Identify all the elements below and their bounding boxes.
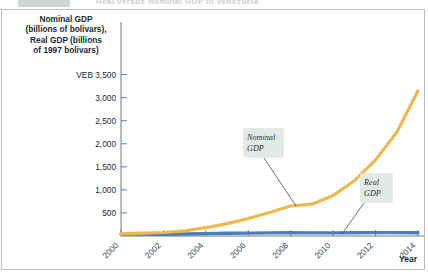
x-tick-label: 2010 bbox=[312, 240, 332, 260]
y-tick-label: 1,000 bbox=[95, 185, 116, 195]
chart-plot-area: VEB 3,5003,0002,5002,0001,5001,000500 20… bbox=[2, 10, 426, 269]
x-tick-label: 2002 bbox=[143, 240, 163, 260]
x-tick-label: 2006 bbox=[228, 240, 248, 260]
page-header-strip: Real versus Nominal GDP in Venezuela bbox=[0, 0, 428, 9]
x-tick-label: 2000 bbox=[100, 240, 120, 260]
x-tick-label: 2012 bbox=[355, 240, 375, 260]
real-gdp-callout-line1: Real bbox=[363, 178, 380, 187]
figure-container: Real versus Nominal GDP in Venezuela Nom… bbox=[0, 0, 428, 272]
y-tick-label: 3,000 bbox=[95, 93, 116, 103]
nominal-gdp-line bbox=[121, 91, 418, 234]
y-tick-label: 1,500 bbox=[95, 162, 116, 172]
x-tick-label: 2004 bbox=[185, 240, 205, 260]
chart-annotations: NominalGDPRealGDP bbox=[243, 128, 393, 234]
header-tab-block bbox=[18, 0, 70, 7]
nominal-gdp-callout: NominalGDP bbox=[243, 128, 296, 206]
nominal-gdp-callout-line2: GDP bbox=[247, 144, 264, 153]
x-axis-title: Year bbox=[399, 254, 418, 264]
y-axis-ticks: VEB 3,5003,0002,5002,0001,5001,000500 bbox=[76, 70, 127, 218]
y-tick-label: 500 bbox=[102, 208, 116, 218]
y-tick-label: 2,000 bbox=[95, 139, 116, 149]
chart-frame: Nominal GDP (billions of bolivars), Real… bbox=[1, 9, 425, 270]
real-gdp-callout-line2: GDP bbox=[364, 189, 381, 198]
figure-caption-cropped: Real versus Nominal GDP in Venezuela bbox=[96, 0, 259, 6]
y-tick-label: VEB 3,500 bbox=[76, 70, 116, 80]
nominal-gdp-callout-line1: Nominal bbox=[246, 133, 276, 142]
x-tick-label: 2008 bbox=[270, 240, 290, 260]
y-tick-label: 2,500 bbox=[95, 116, 116, 126]
